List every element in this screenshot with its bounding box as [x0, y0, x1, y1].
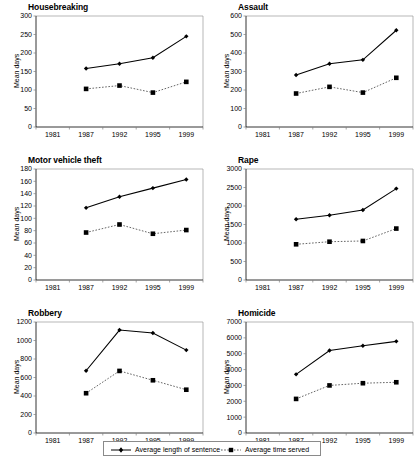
plot-area: 05010015020025030019811987199219951999Me…: [0, 0, 210, 152]
x-tick-label: 1992: [322, 131, 338, 138]
y-tick-label: 180: [20, 165, 32, 172]
y-tick-label: 80: [24, 227, 32, 234]
y-tick-label: 1000: [16, 337, 32, 344]
panel-assault: Assault 01002003004005006001981198719921…: [210, 0, 420, 152]
y-tick-label: 250: [20, 31, 32, 38]
data-point-sentence: [361, 344, 365, 348]
data-point-served: [117, 83, 122, 88]
legend-label: Average time served: [245, 446, 309, 453]
x-tick-label: 1992: [112, 284, 128, 291]
x-tick-label: 1995: [145, 131, 161, 138]
y-axis-label: Mean days: [223, 53, 230, 87]
y-tick-label: 1000: [226, 414, 242, 421]
y-axis-label: Mean days: [13, 206, 20, 240]
plot-svg: 05010015020025030019811987199219951999: [0, 0, 210, 152]
data-point-sentence: [394, 339, 398, 343]
y-tick-label: 20: [24, 264, 32, 271]
data-point-served: [294, 397, 299, 402]
data-point-served: [294, 242, 299, 247]
x-tick-label: 1981: [45, 131, 61, 138]
x-tick-label: 1992: [112, 131, 128, 138]
y-tick-label: 600: [20, 374, 32, 381]
x-tick-label: 1981: [255, 284, 271, 291]
data-point-served: [184, 228, 189, 233]
x-tick-label: 1995: [355, 284, 371, 291]
data-point-sentence: [117, 62, 121, 66]
y-tick-label: 0: [238, 429, 242, 436]
y-tick-label: 200: [20, 411, 32, 418]
y-tick-label: 140: [20, 190, 32, 197]
data-point-served: [361, 239, 366, 244]
plot-svg: 0500100015002000250030001981198719921995…: [210, 153, 420, 305]
y-tick-label: 400: [20, 392, 32, 399]
data-point-served: [327, 85, 332, 90]
data-point-sentence: [184, 177, 188, 181]
y-tick-label: 50: [24, 105, 32, 112]
data-point-served: [361, 90, 366, 95]
y-tick-label: 800: [20, 355, 32, 362]
y-tick-label: 200: [230, 86, 242, 93]
data-point-sentence: [294, 217, 298, 221]
y-tick-label: 100: [230, 105, 242, 112]
data-point-served: [361, 381, 366, 386]
x-tick-label: 1999: [389, 131, 405, 138]
y-tick-label: 600: [230, 12, 242, 19]
plot-svg: 0100020003000400050006000700019811987199…: [210, 306, 420, 458]
x-tick-label: 1999: [179, 131, 195, 138]
y-axis-label: Mean days: [223, 359, 230, 393]
data-point-sentence: [84, 206, 88, 210]
y-tick-label: 500: [230, 258, 242, 265]
data-point-served: [184, 80, 189, 85]
data-point-served: [84, 87, 89, 92]
y-tick-label: 1200: [16, 318, 32, 325]
y-tick-label: 3000: [226, 165, 242, 172]
legend-item-average-length-of-sentence: Average length of sentence: [110, 444, 220, 455]
y-tick-label: 500: [230, 31, 242, 38]
y-tick-label: 200: [20, 49, 32, 56]
plot-area: 0500100015002000250030001981198719921995…: [210, 153, 420, 305]
data-point-sentence: [294, 73, 298, 77]
data-point-sentence: [84, 66, 88, 70]
y-axis-label: Mean days: [13, 359, 20, 393]
x-tick-label: 1999: [389, 437, 405, 444]
chart-legend: Average length of sentence Average time …: [103, 441, 321, 456]
x-tick-label: 1987: [288, 131, 304, 138]
y-tick-label: 300: [230, 68, 242, 75]
x-tick-label: 1999: [389, 284, 405, 291]
y-tick-label: 60: [24, 239, 32, 246]
plot-svg: 010020030040050060019811987199219951999: [210, 0, 420, 152]
plot-area: 0200400600800100012001981198719921995199…: [0, 306, 210, 458]
x-tick-label: 1981: [45, 437, 61, 444]
data-point-sentence: [327, 213, 331, 217]
data-point-served: [117, 222, 122, 227]
legend-item-average-time-served: Average time served: [220, 444, 309, 455]
panel-rape: Rape 05001000150020002500300019811987199…: [210, 153, 420, 305]
y-tick-label: 0: [28, 276, 32, 283]
x-tick-label: 1995: [355, 437, 371, 444]
y-tick-label: 0: [238, 123, 242, 130]
plot-area: 0100020003000400050006000700019811987199…: [210, 306, 420, 458]
x-tick-label: 1992: [322, 437, 338, 444]
data-point-served: [184, 387, 189, 392]
y-tick-label: 400: [230, 49, 242, 56]
data-point-sentence: [117, 195, 121, 199]
y-tick-label: 0: [28, 429, 32, 436]
data-point-served: [84, 230, 89, 235]
square-marker-icon: [220, 446, 242, 454]
data-point-served: [394, 75, 399, 80]
y-tick-label: 2500: [226, 184, 242, 191]
y-tick-label: 2000: [226, 398, 242, 405]
x-tick-label: 1981: [255, 131, 271, 138]
plot-svg: 0204060801001201401601801981198719921995…: [0, 153, 210, 305]
panel-homicide: Homicide 0100020003000400050006000700019…: [210, 306, 420, 458]
y-tick-label: 160: [20, 178, 32, 185]
y-axis-label: Mean days: [13, 53, 20, 87]
y-tick-label: 6000: [226, 334, 242, 341]
x-tick-label: 1999: [179, 284, 195, 291]
y-tick-label: 7000: [226, 318, 242, 325]
y-tick-label: 100: [20, 215, 32, 222]
x-tick-label: 1981: [45, 284, 61, 291]
x-tick-label: 1992: [322, 284, 338, 291]
data-point-served: [327, 239, 332, 244]
x-tick-label: 1995: [355, 131, 371, 138]
